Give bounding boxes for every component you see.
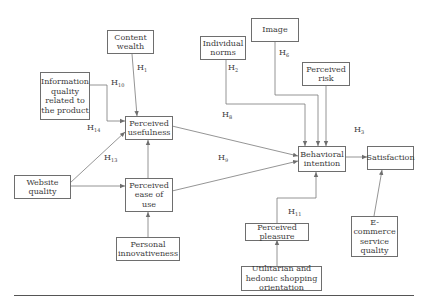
node-satisfaction: Satisfaction [367, 146, 414, 170]
research-model-diagram: Content wealth Information quality relat… [0, 0, 428, 305]
node-label: Satisfaction [366, 153, 414, 163]
hypothesis-label-h14: H14 [87, 124, 100, 134]
node-label: Behavioral intention [300, 150, 344, 169]
edge-h8 [172, 126, 298, 156]
node-label: E-commerce service quality [353, 218, 395, 256]
hypothesis-label-h9: H9 [218, 154, 228, 164]
edge-h9 [172, 161, 298, 191]
node-content-wealth: Content wealth [107, 30, 154, 54]
node-label: Individual norms [203, 39, 244, 58]
node-label: Personal innovativeness [118, 240, 178, 259]
hypothesis-label-h2: H2 [228, 64, 238, 74]
node-individual-norms: Individual norms [200, 36, 246, 60]
node-perceived-pleasure: Perceived pleasure [245, 223, 309, 241]
hypothesis-label-h1: H1 [137, 64, 147, 74]
node-personal-innovativeness: Personal innovativeness [116, 237, 180, 261]
node-label: Perceived usefulness [128, 119, 171, 138]
node-label: Perceived risk [305, 65, 347, 84]
node-label: Content wealth [110, 33, 151, 52]
node-label: Perceived pleasure [248, 223, 306, 242]
edge-h10 [89, 85, 125, 121]
node-label: Perceived ease of use [128, 181, 170, 210]
node-perceived-ease-of-use: Perceived ease of use [125, 178, 173, 212]
node-label: Information quality related to the produ… [41, 77, 89, 115]
node-label: Image [262, 25, 287, 35]
node-perceived-risk: Perceived risk [302, 62, 350, 86]
hypothesis-label-h3: H3 [354, 126, 364, 136]
node-label: Utilitarian and hedonic shopping orienta… [244, 264, 319, 293]
hypothesis-label-h13: H13 [104, 154, 117, 164]
hypothesis-label-h6: H6 [279, 49, 289, 59]
node-image: Image [251, 18, 299, 42]
node-label: Website quality [17, 178, 68, 197]
bottom-rule-divider [14, 295, 414, 296]
hypothesis-label-h11: H11 [288, 208, 301, 218]
node-perceived-usefulness: Perceived usefulness [125, 116, 173, 140]
hypothesis-label-h8: H8 [222, 111, 232, 121]
node-utilitarian-hedonic: Utilitarian and hedonic shopping orienta… [241, 266, 322, 291]
edge-esq-sat [374, 170, 382, 216]
node-information-quality: Information quality related to the produ… [40, 72, 90, 120]
node-website-quality: Website quality [14, 175, 71, 199]
node-behavioral-intention: Behavioral intention [298, 146, 346, 172]
node-ecommerce-service-quality: E-commerce service quality [351, 216, 398, 257]
hypothesis-label-h10: H10 [111, 79, 124, 89]
